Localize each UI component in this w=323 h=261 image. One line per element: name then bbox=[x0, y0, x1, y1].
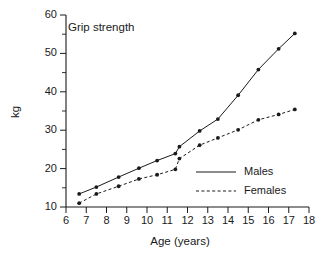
data-point bbox=[256, 118, 260, 122]
data-point bbox=[293, 32, 297, 36]
x-tick-label: 17 bbox=[283, 214, 295, 226]
y-tick-label: 10 bbox=[45, 200, 57, 212]
chart-canvas: 102030405060 6789101112131415161718 Grip… bbox=[0, 0, 323, 261]
data-point bbox=[198, 129, 202, 133]
x-tick-label: 11 bbox=[162, 214, 173, 226]
x-axis-title: Age (years) bbox=[150, 235, 210, 247]
legend-label-males: Males bbox=[244, 165, 274, 177]
x-tick-label: 10 bbox=[141, 214, 153, 226]
data-point bbox=[137, 166, 141, 170]
data-point bbox=[94, 192, 98, 196]
data-point bbox=[236, 128, 240, 132]
data-point bbox=[277, 47, 281, 51]
data-point bbox=[117, 184, 121, 188]
x-tick-label: 16 bbox=[262, 214, 274, 226]
grip-strength-chart: 102030405060 6789101112131415161718 Grip… bbox=[0, 0, 323, 261]
y-tick-label: 30 bbox=[45, 123, 57, 135]
y-tick-label: 50 bbox=[45, 46, 57, 58]
data-point bbox=[198, 143, 202, 147]
data-point bbox=[178, 157, 182, 161]
x-tick-label: 7 bbox=[83, 214, 89, 226]
data-point bbox=[236, 93, 240, 97]
data-point bbox=[77, 192, 81, 196]
data-point bbox=[216, 136, 220, 140]
x-tick-label: 8 bbox=[103, 214, 109, 226]
data-point bbox=[77, 201, 81, 205]
x-tick-label: 14 bbox=[222, 214, 234, 226]
x-tick-label: 13 bbox=[202, 214, 214, 226]
data-point bbox=[256, 68, 260, 72]
plot-title: Grip strength bbox=[68, 21, 134, 33]
y-tick-label: 60 bbox=[45, 8, 57, 20]
data-point bbox=[155, 159, 159, 163]
data-point bbox=[173, 167, 177, 171]
data-point bbox=[137, 177, 141, 181]
data-point bbox=[117, 175, 121, 179]
x-tick-label: 9 bbox=[124, 214, 130, 226]
data-point bbox=[155, 173, 159, 177]
y-axis-title: kg bbox=[9, 106, 21, 118]
data-point bbox=[216, 117, 220, 121]
data-point bbox=[178, 145, 182, 149]
legend-label-females: Females bbox=[244, 184, 287, 196]
y-tick-label: 20 bbox=[45, 162, 57, 174]
x-tick-label: 15 bbox=[242, 214, 254, 226]
x-tick-label: 12 bbox=[181, 214, 193, 226]
data-point bbox=[173, 152, 177, 156]
x-tick-label: 18 bbox=[303, 214, 315, 226]
y-tick-label: 40 bbox=[45, 85, 57, 97]
data-point bbox=[293, 108, 297, 112]
data-point bbox=[277, 113, 281, 117]
data-point bbox=[94, 185, 98, 189]
x-tick-label: 6 bbox=[63, 214, 69, 226]
